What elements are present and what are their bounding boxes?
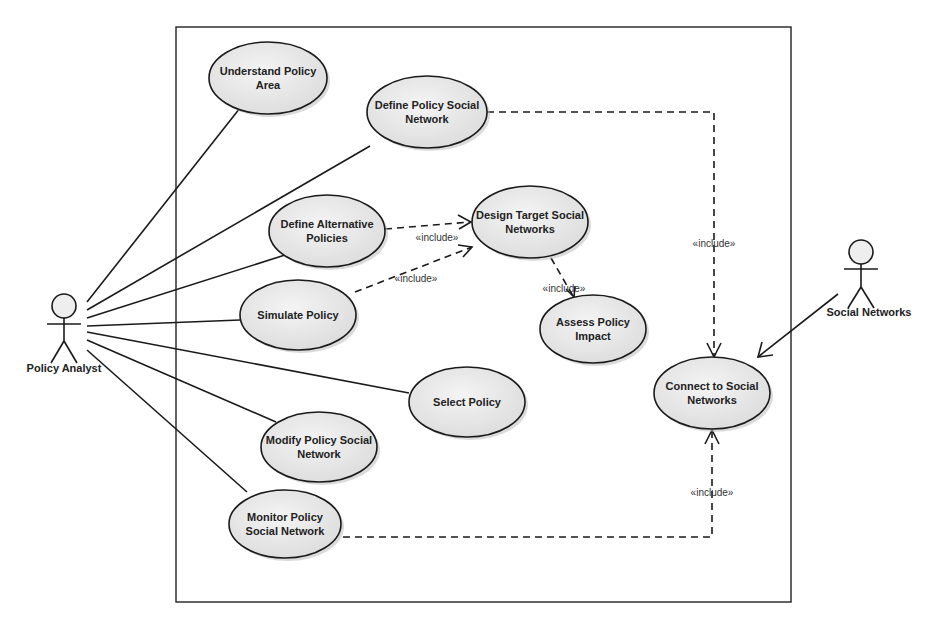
association-modify <box>87 340 276 422</box>
use-case-define-alternative-policies[interactable]: Define Alternative Policies <box>269 195 388 270</box>
include-label: «include» <box>395 273 438 284</box>
use-case-understand-policy-area[interactable]: Understand Policy Area <box>209 42 330 117</box>
use-case-label: Area <box>256 79 281 91</box>
include-label: «include» <box>543 283 586 294</box>
use-case-label: Networks <box>687 394 737 406</box>
association-select <box>87 332 409 393</box>
use-case-simulate-policy[interactable]: Simulate Policy <box>240 280 359 353</box>
use-case-ellipse[interactable] <box>367 76 487 148</box>
use-case-label: Define Alternative <box>280 218 373 230</box>
actor-label: Policy Analyst <box>27 362 102 374</box>
actor-policy-analyst[interactable]: Policy Analyst <box>27 294 102 374</box>
use-case-label: Network <box>297 448 341 460</box>
use-case-ellipse[interactable] <box>261 412 377 482</box>
use-case-label: Network <box>405 113 449 125</box>
include-dependencies: «include» «include» «include» «include» … <box>343 112 736 537</box>
use-case-modify-policy-social-network[interactable]: Modify Policy Social Network <box>261 412 380 485</box>
actor-label: Social Networks <box>827 306 912 318</box>
use-case-ellipse[interactable] <box>540 295 646 363</box>
use-case-ellipse[interactable] <box>472 186 588 258</box>
use-case-diagram: «include» «include» «include» «include» … <box>0 0 928 629</box>
actor-leg-left <box>848 287 861 308</box>
use-case-label: Monitor Policy <box>247 511 324 523</box>
actor-social-networks[interactable]: Social Networks <box>827 240 912 318</box>
use-case-assess-policy-impact[interactable]: Assess Policy Impact <box>540 295 649 366</box>
use-case-label: Define Policy Social <box>375 99 480 111</box>
use-case-label: Impact <box>575 330 611 342</box>
actor-leg-right <box>861 287 874 308</box>
use-case-label: Design Target Social <box>476 209 584 221</box>
use-case-label: Simulate Policy <box>257 309 339 321</box>
use-case-ellipse[interactable] <box>209 42 327 114</box>
association-simulate <box>87 320 240 326</box>
include-label: «include» <box>416 232 459 243</box>
use-case-label: Social Network <box>246 525 326 537</box>
use-case-select-policy[interactable]: Select Policy <box>409 367 528 440</box>
include-label: «include» <box>693 238 736 249</box>
include-define-alt-design-target <box>385 222 470 229</box>
use-case-label: Understand Policy <box>220 65 317 77</box>
use-case-label: Networks <box>505 223 555 235</box>
use-case-label: Select Policy <box>433 396 502 408</box>
use-case-label: Connect to Social <box>666 380 759 392</box>
include-label: «include» <box>691 487 734 498</box>
use-case-ellipse[interactable] <box>229 490 341 558</box>
association-understand <box>87 108 240 302</box>
association-connect <box>758 294 838 357</box>
actor-leg-right <box>64 341 77 363</box>
actor-head-icon <box>52 294 76 318</box>
actor-head-icon <box>849 240 873 264</box>
include-monitor-connect <box>343 431 712 537</box>
use-case-label: Assess Policy <box>556 316 631 328</box>
use-case-monitor-policy-social-network[interactable]: Monitor Policy Social Network <box>229 490 344 561</box>
use-case-ellipse[interactable] <box>269 195 385 267</box>
use-case-label: Modify Policy Social <box>266 434 372 446</box>
use-case-connect-to-social-networks[interactable]: Connect to Social Networks <box>654 357 773 432</box>
association-monitor <box>87 350 247 492</box>
use-case-define-policy-social-network[interactable]: Define Policy Social Network <box>367 76 490 151</box>
use-case-label: Policies <box>306 232 348 244</box>
actor-leg-left <box>51 341 64 363</box>
use-case-ellipse[interactable] <box>654 357 770 429</box>
use-case-design-target-social-networks[interactable]: Design Target Social Networks <box>472 186 591 261</box>
